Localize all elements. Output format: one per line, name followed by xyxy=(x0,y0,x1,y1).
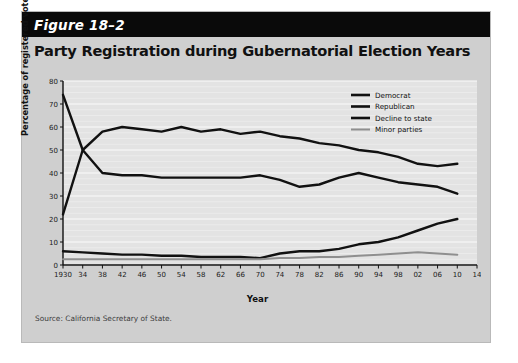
figure-page: Figure 18–2 Party Registration during Gu… xyxy=(0,0,518,363)
page-title: Party Registration during Gubernatorial … xyxy=(34,42,482,59)
svg-text:78: 78 xyxy=(295,271,304,279)
figure-number-label: Figure 18–2 xyxy=(22,17,125,33)
svg-text:Republican: Republican xyxy=(375,102,415,111)
svg-text:20: 20 xyxy=(49,216,58,224)
source-note: Source: California Secretary of State. xyxy=(35,314,172,323)
figure-header-bar: Figure 18–2 xyxy=(22,12,490,37)
svg-text:06: 06 xyxy=(433,271,442,279)
svg-text:94: 94 xyxy=(374,271,383,279)
line-chart: 0102030405060708019303438424650545862667… xyxy=(34,75,481,308)
svg-text:10: 10 xyxy=(49,239,58,247)
svg-text:80: 80 xyxy=(49,78,58,86)
svg-text:10: 10 xyxy=(453,271,462,279)
svg-text:34: 34 xyxy=(78,271,87,279)
svg-text:Decline to state: Decline to state xyxy=(375,114,432,123)
svg-text:42: 42 xyxy=(118,271,127,279)
svg-text:0: 0 xyxy=(54,262,58,270)
svg-text:02: 02 xyxy=(413,271,422,279)
svg-text:74: 74 xyxy=(275,271,284,279)
svg-text:60: 60 xyxy=(49,124,58,132)
svg-text:54: 54 xyxy=(177,271,186,279)
svg-text:14: 14 xyxy=(473,271,481,279)
svg-text:70: 70 xyxy=(49,101,58,109)
svg-text:30: 30 xyxy=(49,193,58,201)
svg-text:40: 40 xyxy=(49,170,58,178)
svg-text:82: 82 xyxy=(315,271,324,279)
svg-text:Democrat: Democrat xyxy=(375,91,411,100)
svg-text:46: 46 xyxy=(137,271,146,279)
svg-text:70: 70 xyxy=(256,271,265,279)
svg-text:1930: 1930 xyxy=(54,271,72,279)
svg-text:66: 66 xyxy=(236,271,245,279)
svg-text:50: 50 xyxy=(157,271,166,279)
figure-card: Figure 18–2 Party Registration during Gu… xyxy=(21,11,491,343)
y-axis-title: Percentage of registered voters xyxy=(20,0,30,137)
svg-text:58: 58 xyxy=(197,271,206,279)
svg-text:86: 86 xyxy=(335,271,344,279)
svg-text:50: 50 xyxy=(49,147,58,155)
chart-plot-area: Percentage of registered voters Year 010… xyxy=(34,75,481,308)
svg-text:98: 98 xyxy=(394,271,403,279)
svg-text:90: 90 xyxy=(354,271,363,279)
svg-text:38: 38 xyxy=(98,271,107,279)
svg-text:62: 62 xyxy=(216,271,225,279)
svg-text:Minor parties: Minor parties xyxy=(375,125,423,134)
